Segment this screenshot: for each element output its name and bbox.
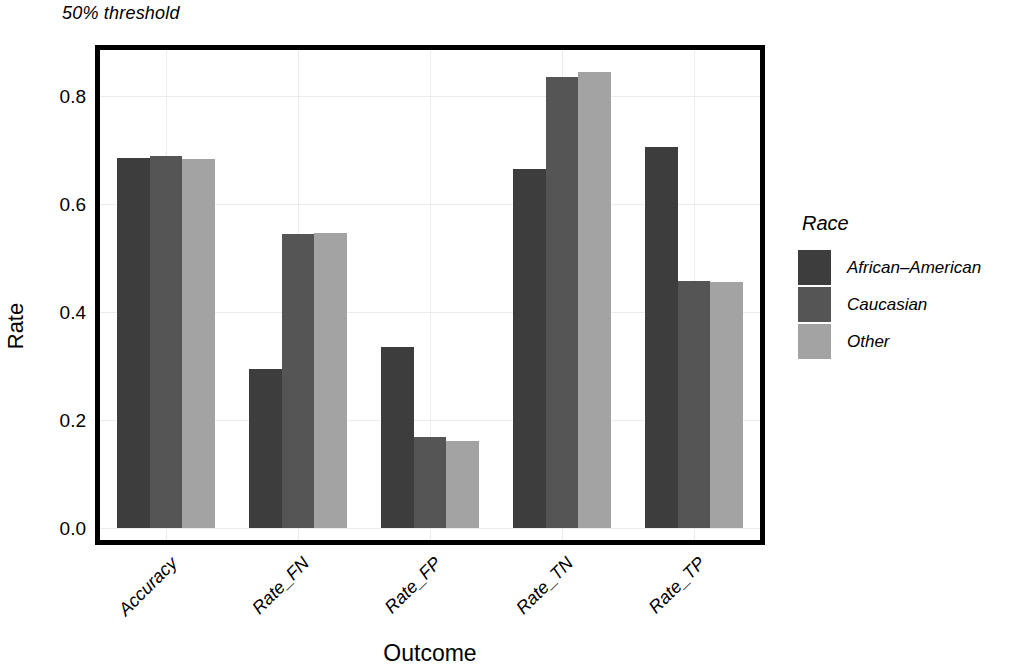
y-axis-title: Rate [3, 266, 29, 386]
legend-entry[interactable]: Other [798, 323, 1026, 360]
bar [546, 77, 579, 528]
legend-label: African–American [847, 258, 981, 278]
x-axis: AccuracyRate_FNRate_FPRate_TNRate_TP Out… [95, 545, 765, 671]
legend-entry[interactable]: African–American [798, 249, 1026, 286]
bar [414, 437, 447, 528]
legend-label: Other [847, 332, 890, 352]
legend-entry[interactable]: Caucasian [798, 286, 1026, 323]
chart-title: 50% threshold [62, 3, 180, 24]
bar [282, 234, 315, 528]
legend-swatch [798, 250, 831, 285]
bar [446, 441, 479, 528]
y-tick-label: 0.6 [6, 195, 86, 214]
y-axis: Rate 0.00.20.40.60.8 [0, 45, 86, 545]
bar [645, 147, 678, 528]
y-tick-label: 0.4 [6, 303, 86, 322]
legend-label: Caucasian [847, 295, 927, 315]
bar [578, 72, 611, 528]
bar [513, 169, 546, 528]
bar [710, 282, 743, 528]
bar [678, 281, 711, 528]
bar [117, 158, 150, 528]
bar-chart: 50% threshold Rate 0.00.20.40.60.8 Accur… [0, 0, 1026, 671]
legend-title: Race [802, 212, 1026, 235]
plot-area [95, 45, 765, 545]
bar [314, 233, 347, 528]
x-axis-title: Outcome [95, 640, 765, 667]
bar [381, 347, 414, 528]
legend-entries: African–AmericanCaucasianOther [798, 249, 1026, 360]
y-tick-label: 0.8 [6, 87, 86, 106]
y-tick-label: 0.0 [6, 519, 86, 538]
bar [182, 159, 215, 528]
plot-inner [100, 50, 760, 540]
bar [150, 156, 183, 528]
bar [249, 369, 282, 528]
legend-swatch [798, 324, 831, 359]
y-tick-label: 0.2 [6, 411, 86, 430]
legend-swatch [798, 287, 831, 322]
legend: Race African–AmericanCaucasianOther [798, 212, 1026, 360]
